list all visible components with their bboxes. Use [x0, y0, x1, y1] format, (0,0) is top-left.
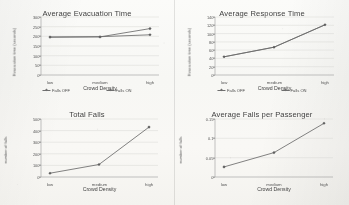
legend-marker-icon: [281, 90, 289, 91]
chart-panel-total-falls: Total Falls number of falls: [0, 103, 175, 205]
x-tick-label-high: high: [145, 182, 153, 187]
x-axis-label: Crowd Density: [83, 186, 117, 192]
y-tick-label: 0.05: [206, 155, 214, 160]
chart-title: Total Falls: [0, 110, 174, 119]
legend-marker-icon: [106, 90, 114, 91]
x-tick-label-low: low: [47, 80, 53, 85]
x-tick-label-high: high: [321, 80, 329, 85]
chart-grid: Average Evacuation Time Evacuation time …: [0, 0, 349, 205]
chart-title: Average Falls per Passenger: [175, 110, 349, 119]
plot-svg: [215, 17, 334, 75]
legend-item-falls-off: Falls OFF: [42, 88, 70, 93]
series-line-falls-on: [224, 25, 325, 57]
legend-item-falls-on: Falls ON: [106, 88, 132, 93]
legend-label: Falls OFF: [52, 88, 70, 93]
y-axis-label: number of falls: [178, 136, 183, 163]
data-point-markers: [222, 23, 326, 58]
chart-legend: Falls OFF Falls ON: [42, 88, 131, 93]
scanned-page: Average Evacuation Time Evacuation time …: [0, 0, 349, 205]
legend-item-falls-on: Falls ON: [281, 88, 307, 93]
data-point-markers: [222, 122, 325, 169]
y-axis-label: Evacuation time (seconds): [12, 27, 17, 75]
chart-legend: Falls OFF Falls ON: [217, 88, 306, 93]
legend-label: Falls OFF: [227, 88, 245, 93]
y-axis-label: Evacuation time (seconds): [187, 27, 192, 75]
x-tick-label-high: high: [320, 182, 328, 187]
x-tick-label-low: low: [47, 182, 53, 187]
y-axis-label: number of falls: [3, 136, 8, 163]
series-line-falls-off: [224, 25, 325, 57]
plot-svg: [215, 119, 333, 177]
chart-panel-average-response-time: Average Response Time Evacuation time (s…: [175, 0, 349, 103]
legend-label: Falls ON: [116, 88, 132, 93]
chart-panel-average-evacuation-time: Average Evacuation Time Evacuation time …: [0, 0, 175, 103]
plot-area: 0.15 0.1 0.05 0 low medium high Crowd De…: [215, 119, 333, 177]
legend-item-falls-off: Falls OFF: [217, 88, 245, 93]
plot-area: 300 250 200 150 100 50 0 low medium high…: [41, 17, 159, 75]
series-line-falls-on: [50, 127, 149, 173]
plot-area: 140 120 100 80 60 40 20 0 low medium hig…: [215, 17, 334, 75]
x-tick-label-high: high: [146, 80, 154, 85]
legend-marker-icon: [217, 90, 225, 91]
x-axis-label: Crowd Density: [257, 186, 291, 192]
plot-svg: [41, 119, 158, 177]
y-tick-label: 0.15: [206, 117, 214, 122]
series-line-falls-on: [224, 123, 324, 167]
legend-label: Falls ON: [291, 88, 307, 93]
plot-svg: [41, 17, 159, 75]
legend-marker-icon: [42, 90, 50, 91]
x-tick-label-low: low: [221, 182, 227, 187]
data-point-markers: [48, 126, 150, 175]
x-tick-label-low: low: [221, 80, 227, 85]
chart-panel-average-falls-per-passenger: Average Falls per Passenger number of fa…: [175, 103, 349, 205]
plot-area: 500 400 300 200 100 0 low medium high Cr…: [41, 119, 158, 177]
